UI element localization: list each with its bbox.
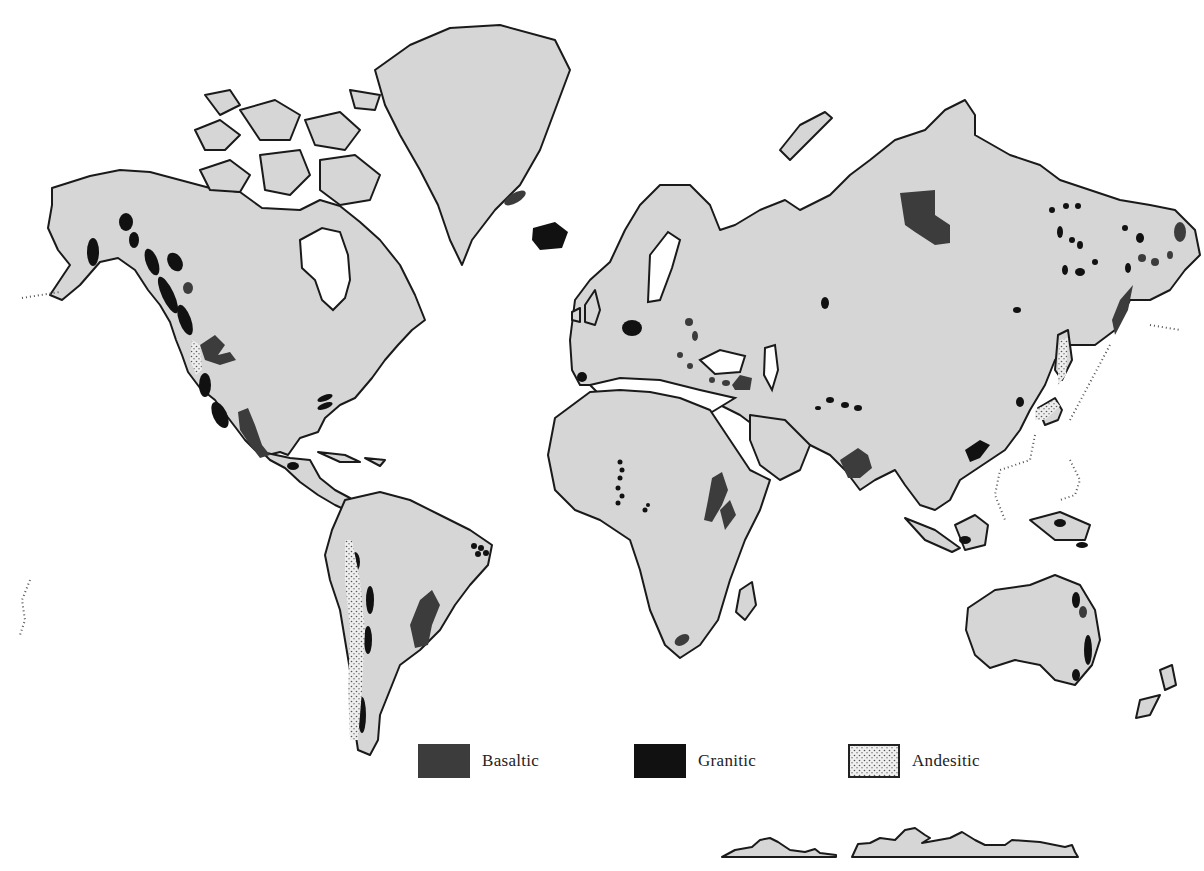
legend-label-granitic: Granitic: [698, 751, 756, 771]
legend-basaltic: Basaltic: [418, 741, 539, 781]
legend-label-basaltic: Basaltic: [482, 751, 539, 771]
novaya-zemlya: [780, 112, 832, 160]
antarctica: [722, 838, 836, 857]
caribbean-islands: [318, 452, 385, 466]
africa: [548, 390, 770, 658]
antarctica-east: [852, 828, 1078, 857]
legend-andesitic: Andesitic: [848, 741, 980, 781]
sumatra: [905, 518, 960, 552]
borneo: [955, 515, 988, 550]
australia: [966, 575, 1100, 685]
legend-granitic: Granitic: [634, 741, 756, 781]
north-america: [48, 170, 425, 455]
basaltic-swatch: [418, 744, 470, 778]
new-zealand: [1136, 665, 1176, 718]
granitic-swatch: [634, 744, 686, 778]
andesitic-swatch: [848, 744, 900, 778]
madagascar: [736, 582, 756, 620]
world-map: [0, 0, 1204, 871]
iceland: [532, 222, 568, 250]
arctic-islands: [195, 90, 380, 205]
legend-label-andesitic: Andesitic: [912, 751, 980, 771]
